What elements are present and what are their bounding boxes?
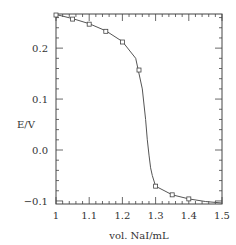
plot-frame — [56, 14, 222, 204]
x-axis-label: vol. NaI/mL — [108, 230, 169, 241]
x-tick-label: 1 — [53, 210, 59, 221]
data-point-marker — [71, 17, 75, 21]
x-tick-label: 1.4 — [181, 210, 197, 221]
y-tick-label: 0.0 — [32, 145, 48, 156]
y-axis-label: E/V — [17, 119, 36, 130]
y-tick-label: −0.1 — [24, 196, 48, 207]
data-points — [54, 13, 191, 201]
x-tick-labels: 11.11.21.31.41.5 — [53, 210, 230, 221]
x-tick-label: 1.1 — [81, 210, 97, 221]
data-point-marker — [54, 13, 58, 17]
y-tick-label: 0.2 — [32, 43, 48, 54]
data-point-marker — [137, 68, 141, 72]
data-point-marker — [104, 29, 108, 33]
x-tick-label: 1.3 — [148, 210, 164, 221]
x-tick-label: 1.5 — [214, 210, 230, 221]
data-point-marker — [154, 184, 158, 188]
titration-chart: 11.11.21.31.41.5 −0.10.00.10.2 vol. NaI/… — [0, 0, 236, 245]
fit-curve — [56, 15, 222, 204]
data-point-marker — [87, 22, 91, 26]
data-point-marker — [170, 193, 174, 197]
data-point-marker — [187, 197, 191, 201]
axis-ticks — [56, 14, 222, 204]
data-point-marker — [120, 40, 124, 44]
x-tick-label: 1.2 — [114, 210, 130, 221]
plot-border — [56, 14, 222, 204]
y-tick-label: 0.1 — [32, 94, 48, 105]
